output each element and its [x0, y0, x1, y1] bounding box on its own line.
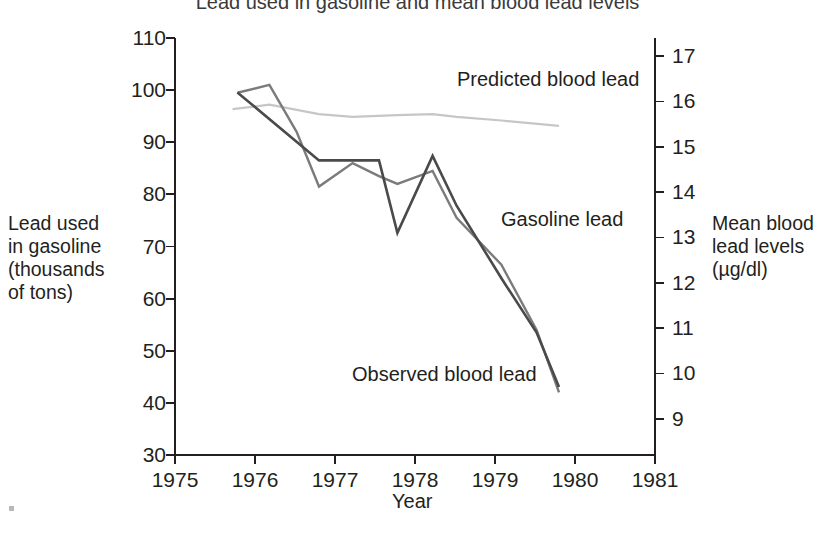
x-tick-label: 1978	[375, 469, 455, 490]
left-tick-label: 100	[108, 79, 166, 100]
series-line-observed-blood-lead	[237, 92, 559, 387]
x-axis-title: Year	[392, 491, 432, 511]
right-tick-label: 10	[672, 362, 695, 383]
x-tick-label: 1977	[295, 469, 375, 490]
x-tick-label: 1976	[215, 469, 295, 490]
left-tick-label: 110	[108, 27, 166, 48]
right-tick-label: 16	[672, 90, 695, 111]
left-tick-label: 90	[108, 131, 166, 152]
right-tick-label: 14	[672, 181, 695, 202]
x-tick-label: 1980	[535, 469, 615, 490]
left-tick-label: 70	[108, 236, 166, 257]
left-tick-label: 80	[108, 183, 166, 204]
x-tick-label: 1979	[455, 469, 535, 490]
chart-title: Lead used in gasoline and mean blood lea…	[0, 0, 835, 14]
right-axis-title: Mean blood lead levels (µg/dl)	[712, 212, 832, 281]
left-tick-label: 30	[108, 444, 166, 465]
page-corner-mark	[9, 506, 14, 511]
series-annotation: Predicted blood lead	[457, 69, 639, 89]
series-annotation: Gasoline lead	[501, 209, 623, 229]
data-series-layer	[233, 85, 559, 393]
right-tick-label: 11	[672, 317, 694, 338]
left-tick-label: 50	[108, 340, 166, 361]
series-annotation: Observed blood lead	[352, 364, 537, 384]
chart-figure: Lead used in gasoline and mean blood lea…	[0, 0, 835, 540]
right-tick-label: 12	[672, 272, 695, 293]
left-tick-label: 60	[108, 288, 166, 309]
axis-ticks	[166, 38, 664, 464]
right-tick-label: 9	[672, 408, 684, 429]
right-tick-label: 15	[672, 136, 695, 157]
right-tick-label: 13	[672, 226, 695, 247]
x-tick-label: 1981	[615, 469, 695, 490]
left-tick-label: 40	[108, 392, 166, 413]
x-tick-label: 1975	[135, 469, 215, 490]
right-tick-label: 17	[672, 45, 695, 66]
